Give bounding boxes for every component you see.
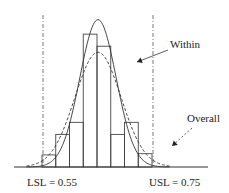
lsl-label: LSL = 0.55 xyxy=(27,176,78,188)
histogram-bar xyxy=(111,134,125,167)
histogram-bar xyxy=(83,34,97,167)
annotations: Within Overall xyxy=(137,38,220,146)
spec-limit-lines xyxy=(43,15,153,167)
distribution-curves xyxy=(27,20,170,167)
overall-label: Overall xyxy=(187,112,220,124)
histogram-bars xyxy=(42,34,152,167)
within-label: Within xyxy=(170,38,201,50)
histogram-bar xyxy=(125,122,139,167)
overall-curve xyxy=(27,52,170,166)
capability-histogram-chart: Within Overall LSL = 0.55 USL = 0.75 xyxy=(0,0,229,193)
histogram-bar xyxy=(97,46,111,167)
histogram-bar xyxy=(70,122,84,167)
within-curve xyxy=(27,20,170,167)
usl-label: USL = 0.75 xyxy=(149,176,201,188)
histogram-bar xyxy=(56,134,70,167)
